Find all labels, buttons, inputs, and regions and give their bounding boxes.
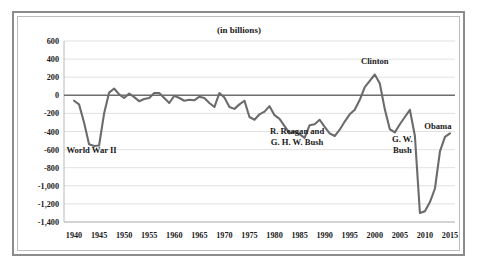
y-tick-400: 400 [47,55,59,64]
y-tick-200: 200 [47,73,59,82]
annotation-reagan-bush-line-0: R. Reagan and [270,126,324,136]
annotation-obama: Obama [424,121,452,131]
chart-frame-outer: 6004002000-200-400-600-800-1,000-1,200-1… [12,11,465,256]
chart-frame-inner: 6004002000-200-400-600-800-1,000-1,200-1… [17,16,460,251]
annotation-obama-line-0: Obama [424,121,452,131]
x-tick-1960: 1960 [166,231,182,240]
x-tick-1980: 1980 [266,231,282,240]
x-tick-1970: 1970 [216,231,232,240]
annotation-gw-bush-line-1: Bush [393,145,412,155]
x-tick-1965: 1965 [191,231,207,240]
annotation-gw-bush: G. W.Bush [392,134,413,155]
annotation-reagan-bush-line-1: G. H. W. Bush [271,137,324,147]
x-tick-1955: 1955 [141,231,157,240]
annotation-reagan-bush: R. Reagan andG. H. W. Bush [270,126,324,147]
annotation-clinton-line-0: Clinton [361,56,389,66]
y-tick--200: -200 [44,109,59,118]
x-tick-1975: 1975 [241,231,257,240]
x-tick-2010: 2010 [417,231,433,240]
chart-plot-area: 6004002000-200-400-600-800-1,000-1,200-1… [18,17,459,250]
chart-title: (in billions) [217,25,261,35]
y-tick--400: -400 [44,128,59,137]
y-tick--800: -800 [44,164,59,173]
y-tick--1400: -1,400 [38,218,59,227]
y-axis-tick-labels: 6004002000-200-400-600-800-1,000-1,200-1… [38,37,59,227]
y-tick--600: -600 [44,146,59,155]
x-tick-1990: 1990 [316,231,332,240]
annotation-clinton: Clinton [361,56,389,66]
annotation-world-war-ii: World War II [66,145,117,155]
chart-annotations: World War IIR. Reagan andG. H. W. BushCl… [66,56,452,156]
x-axis-tick-labels: 1940194519501955196019651970197519801985… [66,231,458,240]
y-tick--1000: -1,000 [38,182,59,191]
budget-deficit-line-chart: 6004002000-200-400-600-800-1,000-1,200-1… [18,17,461,252]
annotation-world-war-ii-line-0: World War II [66,145,117,155]
x-tick-1995: 1995 [342,231,358,240]
annotation-gw-bush-line-0: G. W. [392,134,413,144]
x-tick-2005: 2005 [392,231,408,240]
x-tick-1950: 1950 [116,231,132,240]
y-tick-0: 0 [55,91,59,100]
x-tick-2015: 2015 [442,231,458,240]
x-tick-1940: 1940 [66,231,82,240]
x-tick-1985: 1985 [291,231,307,240]
x-tick-1945: 1945 [91,231,107,240]
y-tick-600: 600 [47,37,59,46]
y-tick--1200: -1,200 [38,200,59,209]
x-tick-2000: 2000 [367,231,383,240]
